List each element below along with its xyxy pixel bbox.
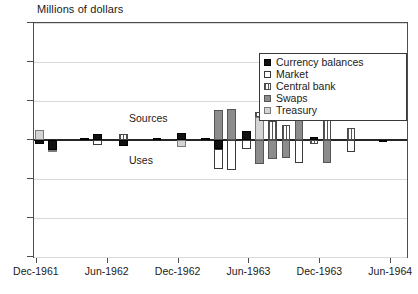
bar-segment xyxy=(93,140,102,145)
y-tick-mark xyxy=(27,61,33,62)
legend-swatch-icon xyxy=(264,83,271,90)
bar-segment xyxy=(48,140,57,150)
bar-segment xyxy=(347,140,356,152)
x-tick-mark xyxy=(36,258,37,263)
plot-area: SourcesUses Currency balancesMarketCentr… xyxy=(33,22,408,258)
legend-item: Central bank xyxy=(264,81,402,92)
grid-line xyxy=(34,257,407,258)
bar-segment xyxy=(268,121,277,140)
plot-annotation: Uses xyxy=(129,154,153,166)
x-tick-label: Dec-1962 xyxy=(155,265,201,277)
x-tick-mark xyxy=(178,258,179,263)
bar-segment xyxy=(268,140,277,159)
legend-item: Market xyxy=(264,69,402,80)
y-tick-mark xyxy=(27,139,33,140)
x-tick-mark xyxy=(390,258,391,263)
x-tick-mark xyxy=(107,258,108,263)
x-tick-label: Dec-1961 xyxy=(13,265,59,277)
bar-segment xyxy=(227,140,236,170)
bar-segment xyxy=(323,140,332,163)
x-tick-label: Dec-1963 xyxy=(297,265,343,277)
bar-segment xyxy=(35,130,44,140)
legend-swatch-icon xyxy=(264,107,271,114)
legend-item: Treasury xyxy=(264,105,402,116)
x-tick-mark xyxy=(319,258,320,263)
bar-segment xyxy=(282,140,291,158)
bar-segment xyxy=(214,149,223,169)
bar-segment xyxy=(379,140,388,142)
legend-swatch-icon xyxy=(264,95,271,102)
bar-segment xyxy=(35,140,44,144)
bar-segment xyxy=(347,128,356,140)
legend-item-label: Central bank xyxy=(276,81,336,92)
x-tick-mark xyxy=(248,258,249,263)
bar-segment xyxy=(48,150,57,152)
x-tick-label: Jun-1962 xyxy=(85,265,129,277)
y-tick-mark xyxy=(27,217,33,218)
legend-swatch-icon xyxy=(264,59,271,66)
legend-item: Swaps xyxy=(264,93,402,104)
bar-segment xyxy=(295,140,304,163)
bar-segment xyxy=(214,140,223,149)
x-tick-label: Jun-1963 xyxy=(227,265,271,277)
legend-item-label: Currency balances xyxy=(276,57,364,68)
plot-annotation: Sources xyxy=(129,112,168,124)
y-tick-mark xyxy=(27,178,33,179)
bar-segment xyxy=(80,138,89,140)
bar-segment xyxy=(255,140,264,164)
y-tick-mark xyxy=(27,22,33,23)
chart-root: Millions of dollars SourcesUses Currency… xyxy=(0,0,418,294)
bar-segment xyxy=(242,140,251,149)
legend-item-label: Market xyxy=(276,69,308,80)
chart-legend: Currency balancesMarketCentral bankSwaps… xyxy=(259,53,407,121)
bar-segment xyxy=(119,140,128,146)
bar-segment xyxy=(282,125,291,140)
bar-segment xyxy=(177,140,186,147)
legend-item-label: Treasury xyxy=(276,105,317,116)
bar-segment xyxy=(201,138,210,140)
x-tick-label: Jun-1964 xyxy=(368,265,412,277)
bar-segment xyxy=(177,133,186,140)
y-tick-mark xyxy=(27,100,33,101)
bar-segment xyxy=(214,110,223,140)
chart-title: Millions of dollars xyxy=(37,3,123,15)
y-tick-mark xyxy=(27,256,33,257)
bar-segment xyxy=(242,131,251,140)
bar-segment xyxy=(310,140,319,144)
bar-segment xyxy=(153,138,162,140)
legend-item-label: Swaps xyxy=(276,93,308,104)
legend-swatch-icon xyxy=(264,71,271,78)
bar-segment xyxy=(227,109,236,140)
legend-item: Currency balances xyxy=(264,57,402,68)
